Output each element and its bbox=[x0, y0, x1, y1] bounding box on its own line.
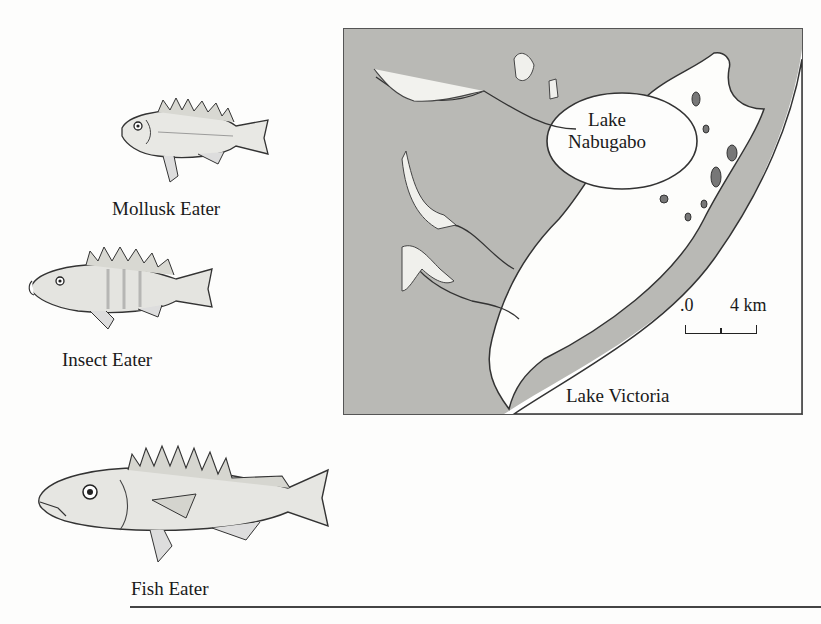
insect-eater-label: Insect Eater bbox=[62, 349, 152, 371]
bottom-divider bbox=[130, 606, 821, 608]
lake-victoria-label: Lake Victoria bbox=[566, 385, 670, 407]
mollusk-eater-illustration bbox=[118, 98, 273, 190]
fish-icon bbox=[118, 98, 273, 190]
scale-end-label: 4 km bbox=[730, 295, 767, 316]
lake-map: Lake Nabugabo Lake Victoria .0 4 km bbox=[343, 28, 803, 415]
fish-icon bbox=[36, 436, 331, 566]
mollusk-eater-label: Mollusk Eater bbox=[112, 198, 220, 220]
lake-nabugabo-label: Lake Nabugabo bbox=[568, 109, 646, 153]
map-illustration bbox=[344, 29, 802, 414]
insect-eater-illustration bbox=[28, 245, 216, 333]
fish-eater-label: Fish Eater bbox=[131, 578, 209, 600]
fish-eater-illustration bbox=[36, 436, 331, 566]
scale-bar: .0 4 km bbox=[680, 295, 780, 335]
fish-icon bbox=[28, 245, 216, 333]
scale-start-label: .0 bbox=[680, 295, 694, 316]
scale-mid-tick bbox=[720, 328, 722, 333]
